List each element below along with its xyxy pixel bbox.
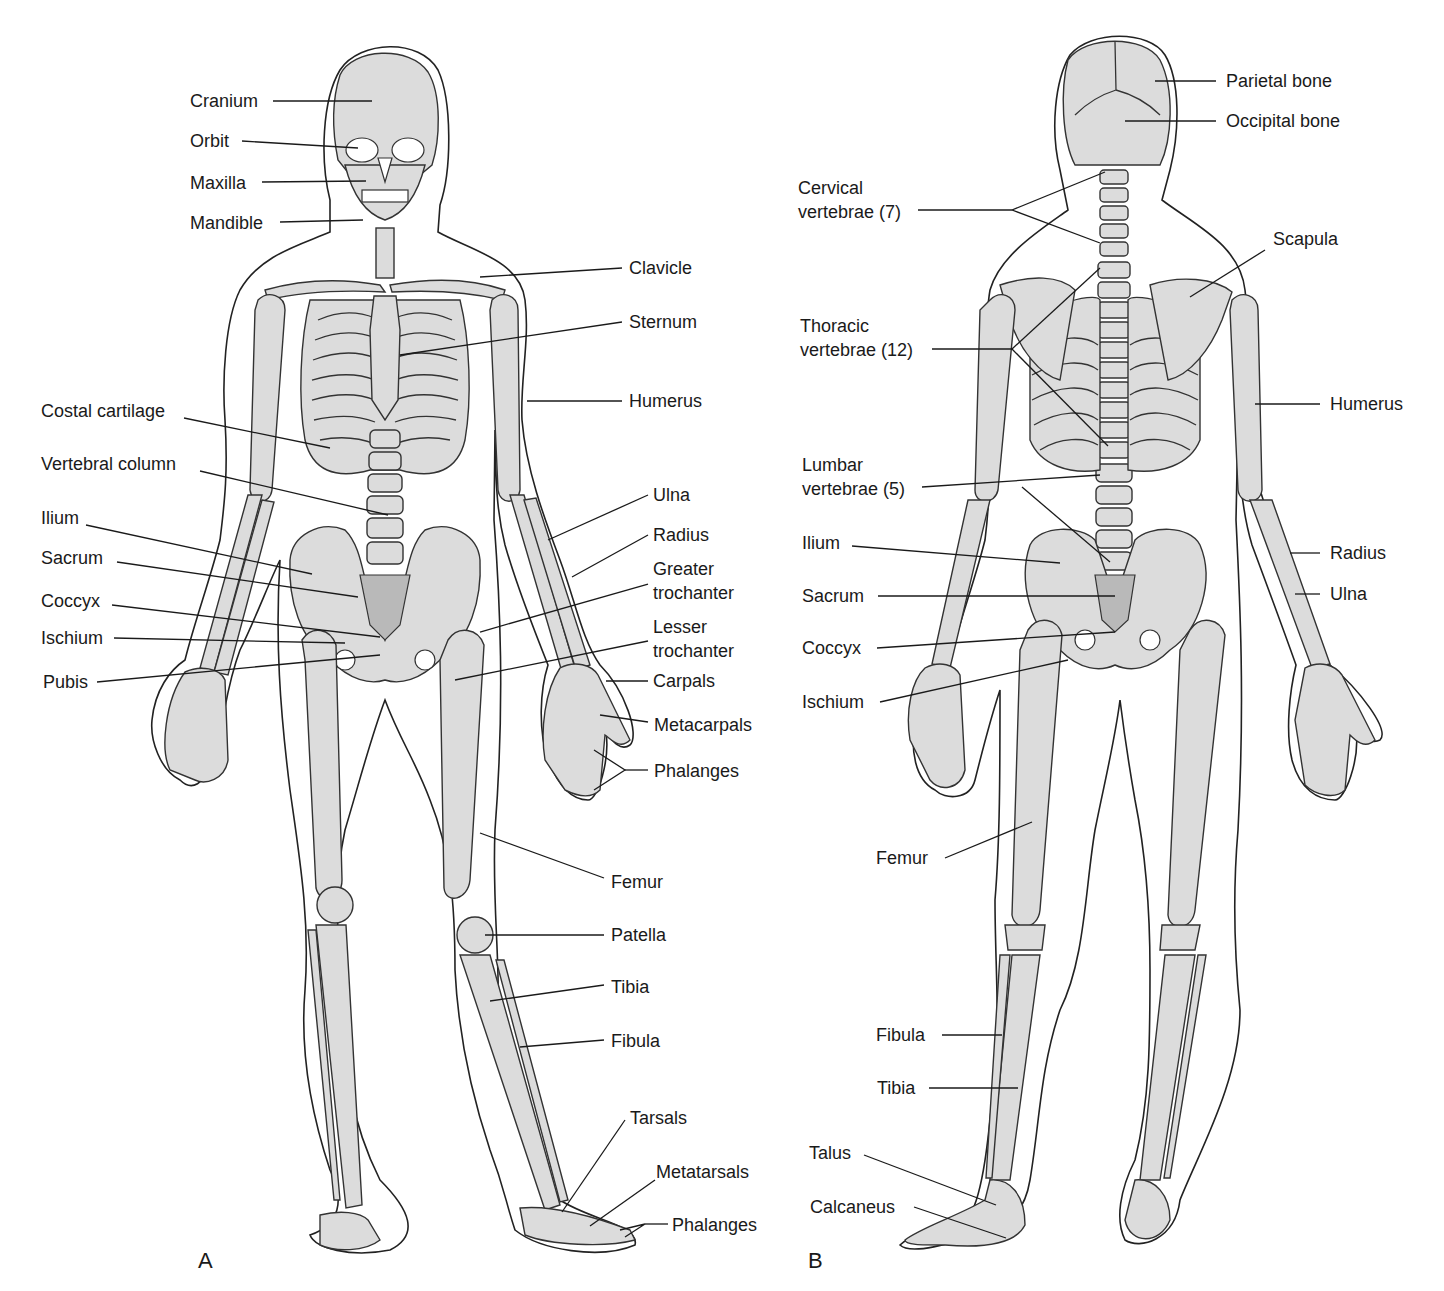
skeleton-figure: Cranium Orbit Maxilla Mandible Clavicle … bbox=[0, 0, 1444, 1291]
label-humerus-b: Humerus bbox=[1330, 394, 1403, 414]
label-sternum: Sternum bbox=[629, 312, 697, 332]
teeth bbox=[362, 190, 408, 202]
hand-right-a bbox=[543, 664, 630, 796]
label-sacrum-a: Sacrum bbox=[41, 548, 103, 568]
obturator-right bbox=[415, 650, 435, 670]
label-ulna-a: Ulna bbox=[653, 485, 691, 505]
panel-letter-a: A bbox=[198, 1248, 213, 1273]
label-coccyx-a: Coccyx bbox=[41, 591, 100, 611]
label-cranium: Cranium bbox=[190, 91, 258, 111]
orbit-right bbox=[392, 138, 424, 162]
label-phalanges-foot: Phalanges bbox=[672, 1215, 757, 1235]
label-greater-trochanter: Greater trochanter bbox=[653, 559, 734, 603]
sternum-a bbox=[370, 296, 400, 420]
label-patella: Patella bbox=[611, 925, 667, 945]
label-ilium-a: Ilium bbox=[41, 508, 79, 528]
label-scapula: Scapula bbox=[1273, 229, 1339, 249]
label-orbit: Orbit bbox=[190, 131, 229, 151]
foot-left-b bbox=[905, 1180, 1025, 1246]
label-femur-a: Femur bbox=[611, 872, 663, 892]
label-ischium-a: Ischium bbox=[41, 628, 103, 648]
label-tibia-b: Tibia bbox=[877, 1078, 916, 1098]
label-radius-a: Radius bbox=[653, 525, 709, 545]
label-vertebral-column: Vertebral column bbox=[41, 454, 176, 474]
knee-right-b bbox=[1160, 925, 1200, 950]
label-lesser-trochanter: Lesser trochanter bbox=[653, 617, 734, 661]
cervical-spine-a bbox=[376, 228, 394, 278]
label-pubis: Pubis bbox=[43, 672, 88, 692]
hand-right-b bbox=[1295, 664, 1375, 795]
label-carpals: Carpals bbox=[653, 671, 715, 691]
obturator-right-b bbox=[1140, 630, 1160, 650]
label-ischium-b: Ischium bbox=[802, 692, 864, 712]
label-femur-b: Femur bbox=[876, 848, 928, 868]
label-radius-b: Radius bbox=[1330, 543, 1386, 563]
label-mandible: Mandible bbox=[190, 213, 263, 233]
label-humerus-a: Humerus bbox=[629, 391, 702, 411]
vertebral-column-b bbox=[1096, 170, 1132, 570]
obturator-left bbox=[335, 650, 355, 670]
label-maxilla: Maxilla bbox=[190, 173, 247, 193]
label-sacrum-b: Sacrum bbox=[802, 586, 864, 606]
label-coccyx-b: Coccyx bbox=[802, 638, 861, 658]
label-ilium-b: Ilium bbox=[802, 533, 840, 553]
label-clavicle: Clavicle bbox=[629, 258, 692, 278]
label-cervical-vertebrae: Cervical vertebrae (7) bbox=[798, 178, 901, 222]
label-occipital-bone: Occipital bone bbox=[1226, 111, 1340, 131]
label-thoracic-vertebrae: Thoracic vertebrae (12) bbox=[800, 316, 913, 360]
panel-letter-b: B bbox=[808, 1248, 823, 1273]
label-tibia-a: Tibia bbox=[611, 977, 650, 997]
label-metatarsals: Metatarsals bbox=[656, 1162, 749, 1182]
label-lumbar-vertebrae: Lumbar vertebrae (5) bbox=[802, 455, 905, 499]
label-ulna-b: Ulna bbox=[1330, 584, 1368, 604]
label-tarsals: Tarsals bbox=[630, 1108, 687, 1128]
label-costal-cartilage: Costal cartilage bbox=[41, 401, 165, 421]
panel-b-posterior-skeleton bbox=[900, 36, 1382, 1249]
patella-left-a bbox=[317, 887, 353, 923]
label-calcaneus: Calcaneus bbox=[810, 1197, 895, 1217]
label-phalanges-hand: Phalanges bbox=[654, 761, 739, 781]
label-parietal-bone: Parietal bone bbox=[1226, 71, 1332, 91]
label-fibula-a: Fibula bbox=[611, 1031, 661, 1051]
label-metacarpals: Metacarpals bbox=[654, 715, 752, 735]
knee-left-b bbox=[1005, 925, 1045, 950]
label-talus: Talus bbox=[809, 1143, 851, 1163]
skull-posterior-b bbox=[1063, 41, 1170, 165]
foot-right-a bbox=[520, 1207, 635, 1244]
orbit-left bbox=[346, 138, 378, 162]
label-fibula-b: Fibula bbox=[876, 1025, 926, 1045]
